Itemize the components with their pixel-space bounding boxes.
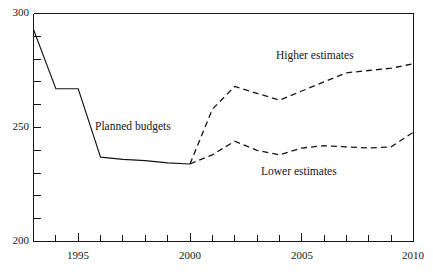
x-tick-label-1995: 1995 [58,250,98,261]
y-tick-label-300: 300 [3,7,29,18]
series-lower-estimates [190,132,414,164]
annotation-higher-estimates: Higher estimates [276,50,354,62]
x-axis-ticks [56,233,391,242]
chart-container: 300 250 200 1995 2000 2005 2010 Planned … [0,0,433,273]
annotation-lower-estimates: Lower estimates [261,166,337,178]
x-tick-label-2010: 2010 [393,250,433,261]
x-tick-label-2005: 2005 [282,250,322,261]
y-tick-label-200: 200 [3,235,29,246]
x-tick-label-2000: 2000 [170,250,210,261]
series-planned-budgets [34,29,190,164]
annotation-planned-budgets: Planned budgets [95,121,171,133]
y-tick-label-250: 250 [3,121,29,132]
chart-plot-area [0,0,433,273]
series-higher-estimates [190,64,414,164]
